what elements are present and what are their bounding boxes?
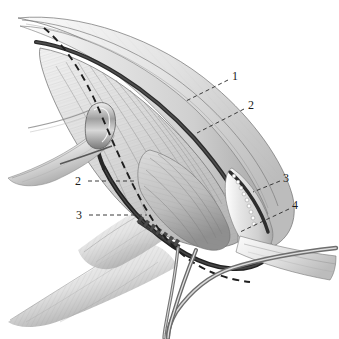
callout-3-right-label: 3: [283, 172, 289, 184]
callout-3-left-label: 3: [76, 209, 82, 221]
callout-1-label: 1: [232, 70, 238, 82]
callout-4-right-label: 4: [292, 199, 298, 211]
callout-2-right-label: 2: [248, 99, 254, 111]
callout-2-left-label: 2: [75, 175, 81, 187]
illustration-canvas: [0, 0, 339, 339]
surgical-illustration-figure: 123423: [0, 0, 339, 339]
